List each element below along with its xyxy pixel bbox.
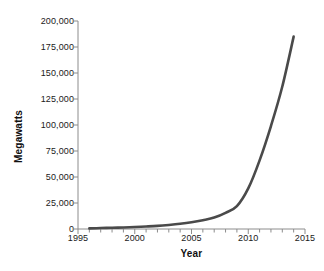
chart-container: Megawatts Year 025,00050,00075,000100,00… bbox=[0, 0, 324, 271]
plot-area bbox=[0, 0, 324, 271]
y-axis-ticks bbox=[73, 21, 78, 229]
data-series-line bbox=[89, 37, 293, 229]
